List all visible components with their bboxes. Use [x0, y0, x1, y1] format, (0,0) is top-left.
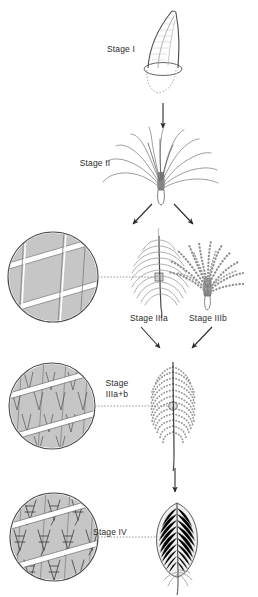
stage-label-stage-2: Stage II — [72, 158, 118, 169]
stage-3b-artwork — [168, 241, 244, 310]
detail-circle-3ab — [2, 360, 177, 452]
stage-4-artwork — [157, 503, 198, 595]
stage-3a-artwork — [131, 228, 188, 318]
figure-artwork — [0, 0, 258, 597]
stage-label-stage-3a: Stage IIIa — [122, 313, 176, 324]
stage-3ab-artwork — [151, 362, 195, 471]
arrow-3b-to-3ab — [192, 327, 212, 348]
stage-1-artwork — [144, 11, 182, 93]
arrow-2-to-3a — [133, 204, 152, 224]
arrow-2-to-3b — [174, 204, 193, 224]
detail-circle-4 — [4, 490, 181, 586]
feather-development-figure: Stage I Stage II Stage IIIa Stage IIIb S… — [0, 0, 258, 597]
stage-2-artwork — [103, 127, 218, 205]
stage-label-stage-1: Stage I — [99, 44, 143, 55]
stage-label-stage-3b: Stage IIIb — [181, 313, 235, 324]
arrow-3a-to-3ab — [141, 327, 160, 348]
stage-label-stage-3ab: Stage IIIa+b — [96, 378, 138, 400]
stage-label-stage-4: Stage IV — [86, 527, 134, 538]
